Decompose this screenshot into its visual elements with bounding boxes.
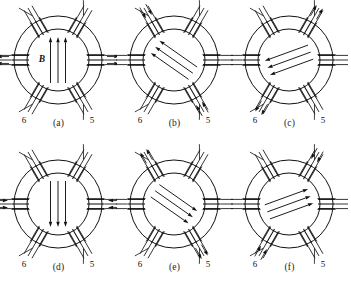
lead-5 — [193, 98, 208, 115]
lead-3 — [193, 150, 208, 167]
lead-1 — [116, 199, 128, 208]
panel-b-field-arrows-1-shaft — [159, 50, 192, 73]
panel-c-field-arrows — [265, 45, 313, 75]
panel-f-field-arrows-0-head — [303, 189, 308, 192]
panel-a-caption: (a) — [0, 118, 117, 128]
panel-e-field-arrows-0-shaft — [159, 185, 192, 208]
lead-1 — [231, 55, 243, 64]
lead-3 — [77, 6, 92, 23]
panel-c-drawing: 123456 — [231, 0, 348, 126]
panel-f-drawing: 123456 — [231, 144, 348, 270]
panel-a-field-arrows-1-head — [56, 37, 59, 42]
panel-a-field-arrows-2-head — [64, 37, 67, 42]
panel-c-field-arrows-2-head — [265, 57, 270, 60]
panel-d-drawing: 123456 — [0, 144, 117, 270]
lead-6-in-0-head — [263, 249, 267, 254]
lead-3-out-1-head — [319, 8, 323, 13]
lead-2 — [24, 150, 39, 167]
terminal-label-2: 2 — [138, 0, 143, 1]
terminal-label-3: 3 — [321, 0, 326, 1]
panel-f-field-arrows-2-shaft — [270, 205, 308, 219]
panel-f-field-arrows-0-shaft — [265, 191, 303, 205]
lead-1-out-1-head — [0, 55, 2, 58]
panel-b-drawing: 123456 — [116, 0, 233, 126]
panel-b-field-arrows-2-head — [159, 41, 164, 45]
panel-c-field-arrows-2-shaft — [270, 45, 308, 59]
lead-6 — [140, 242, 155, 259]
panel-f-field-arrows-1-head — [305, 196, 310, 199]
terminal-label-2: 2 — [22, 144, 27, 145]
panel-d-field-arrows — [49, 181, 67, 227]
lead-4 — [335, 199, 348, 208]
panel-e-field-arrows-0-head — [192, 207, 197, 211]
panel-a-field-arrows — [49, 37, 67, 83]
terminal-label-3: 3 — [90, 144, 95, 145]
lead-1 — [116, 55, 128, 64]
panel-d-field-arrows-1-head — [56, 222, 59, 227]
panel-d-field-arrows-0-head — [64, 222, 67, 227]
figure-six-panel-stator-diagram: B123456(a)123456(b)123456(c)123456(d)123… — [0, 0, 351, 288]
panel-b-field-arrows-2-shaft — [164, 44, 197, 67]
lead-2 — [140, 6, 155, 23]
lead-3 — [77, 150, 92, 167]
lead-2 — [24, 6, 39, 23]
lead-5 — [308, 242, 323, 259]
lead-6 — [255, 242, 270, 259]
panel-e-field-arrows — [151, 185, 197, 224]
field-label-B: B — [38, 54, 45, 64]
panel-f-caption: (f) — [231, 262, 348, 272]
panel-b-field-arrows-0-head — [151, 53, 156, 57]
panel-e-caption: (e) — [116, 262, 233, 272]
panel-e-field-arrows-2-shaft — [151, 197, 184, 220]
panel-c-field-arrows-1-head — [267, 64, 272, 67]
panel-f-field-arrows-1-shaft — [267, 198, 305, 212]
lead-2 — [255, 150, 270, 167]
panel-e-field-arrows-1-shaft — [155, 191, 188, 214]
lead-1 — [231, 199, 243, 208]
lead-4 — [335, 55, 348, 64]
lead-6 — [24, 242, 39, 259]
terminal-label-3: 3 — [206, 144, 211, 145]
panel-a-field-arrows-0-head — [49, 37, 52, 42]
terminal-label-3: 3 — [321, 144, 326, 145]
panel-c-field-arrows-0-shaft — [275, 59, 313, 73]
panel-e-field-arrows-1-head — [188, 213, 193, 217]
panel-e-drawing: 123456 — [116, 144, 233, 270]
terminal-label-2: 2 — [138, 144, 143, 145]
lead-6 — [24, 98, 39, 115]
panel-d-caption: (d) — [0, 262, 117, 272]
terminal-label-3: 3 — [90, 0, 95, 1]
panel-f-field-arrows — [265, 189, 313, 219]
lead-5 — [308, 98, 323, 115]
panel-c-caption: (c) — [231, 118, 348, 128]
panel-e-field-arrows-2-head — [183, 219, 188, 223]
panel-c-field-arrows-1-shaft — [272, 52, 310, 66]
lead-3 — [308, 150, 323, 167]
panel-b-caption: (b) — [116, 118, 233, 128]
panel-d-field-arrows-2-head — [49, 222, 52, 227]
terminal-label-2: 2 — [22, 0, 27, 1]
lead-5 — [77, 98, 92, 115]
lead-1-out-0-head — [0, 62, 2, 65]
terminal-label-2: 2 — [253, 144, 258, 145]
terminal-label-3: 3 — [206, 0, 211, 1]
panel-c-field-arrows-0-head — [270, 72, 275, 75]
panel-a-drawing: B123456 — [0, 0, 117, 126]
lead-3 — [193, 6, 208, 23]
terminal-label-2: 2 — [253, 0, 258, 1]
panel-b-field-arrows-1-head — [155, 47, 160, 51]
lead-5 — [77, 242, 92, 259]
lead-2-in-1-head — [148, 10, 152, 15]
lead-2 — [255, 6, 270, 23]
panel-b-field-arrows-0-shaft — [155, 56, 188, 79]
lead-5-out-0-head — [204, 250, 208, 255]
panel-f-field-arrows-2-head — [308, 203, 313, 206]
panel-b-field-arrows — [151, 41, 197, 80]
lead-6 — [140, 98, 155, 115]
